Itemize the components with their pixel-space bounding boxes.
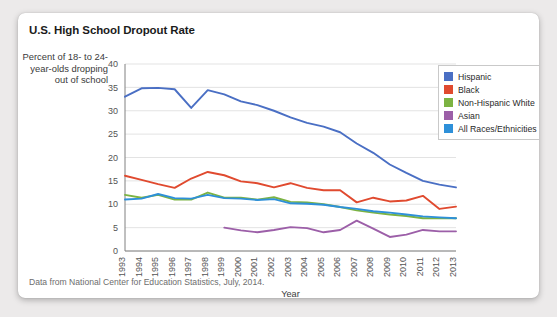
series-line: [125, 194, 456, 218]
legend-item[interactable]: Asian: [444, 109, 537, 122]
x-tick-label: 2003: [283, 257, 293, 277]
series-lines: [125, 88, 456, 237]
series-line: [125, 88, 456, 188]
x-tick-label: 1999: [216, 257, 226, 277]
x-tick-label: 2008: [365, 257, 375, 277]
x-tick-label: 2013: [448, 257, 458, 277]
x-tick-label: 1996: [167, 257, 177, 277]
y-tick-label: 10: [108, 199, 118, 209]
legend-item-label: Asian: [458, 111, 480, 121]
y-tick-label: 30: [108, 106, 118, 116]
legend-item[interactable]: All Races/Ethnicities: [444, 122, 537, 135]
y-tick-label: 15: [108, 176, 118, 186]
grid-lines: [125, 64, 456, 251]
legend-swatch-icon: [444, 72, 453, 81]
x-tick-label: 2009: [382, 257, 392, 277]
x-axis-title: Year: [281, 289, 300, 298]
legend-swatch-icon: [444, 124, 453, 133]
chart-card: U.S. High School Dropout Rate Percent of…: [18, 13, 539, 298]
x-tick-label: 1994: [134, 257, 144, 277]
x-tick-labels: 1993199419951996199719981999200020012002…: [117, 257, 458, 277]
x-tick-label: 1997: [183, 257, 193, 277]
legend-item[interactable]: Hispanic: [444, 70, 537, 83]
chart-legend: HispanicBlackNon-Hispanic WhiteAsianAll …: [438, 65, 539, 140]
x-tick-label: 2005: [316, 257, 326, 277]
x-tick-label: 2011: [415, 257, 425, 276]
legend-swatch-icon: [444, 98, 453, 107]
legend-swatch-icon: [444, 111, 453, 120]
legend-item-label: Hispanic: [458, 72, 491, 82]
x-tick-label: 2002: [266, 257, 276, 277]
y-tick-label: 25: [108, 129, 118, 139]
source-note: Data from National Center for Education …: [29, 277, 264, 287]
line-chart-plot: 0510152025303540 19931994199519961997199…: [18, 13, 539, 298]
y-tick-label: 35: [108, 83, 118, 93]
y-tick-label: 5: [113, 223, 118, 233]
x-tick-label: 2006: [332, 257, 342, 277]
y-tick-labels: 0510152025303540: [108, 59, 118, 256]
x-tick-label: 2007: [349, 257, 359, 277]
x-tick-label: 2004: [299, 257, 309, 277]
legend-item-label: Non-Hispanic White: [458, 98, 535, 108]
x-tick-label: 1993: [117, 257, 127, 277]
y-tick-label: 20: [108, 153, 118, 163]
x-tick-label: 2001: [249, 257, 259, 277]
y-tick-label: 40: [108, 59, 118, 69]
legend-item[interactable]: Non-Hispanic White: [444, 96, 537, 109]
x-axis-label: Year: [281, 289, 300, 298]
x-tick-label: 2000: [233, 257, 243, 277]
legend-swatch-icon: [444, 85, 453, 94]
y-tick-label: 0: [113, 246, 118, 256]
series-line: [224, 221, 456, 237]
legend-item[interactable]: Black: [444, 83, 537, 96]
x-tick-label: 2012: [431, 257, 441, 277]
x-tick-label: 1998: [200, 257, 210, 277]
legend-item-label: Black: [458, 85, 479, 95]
legend-item-label: All Races/Ethnicities: [458, 124, 537, 134]
x-tick-label: 2010: [398, 257, 408, 277]
x-tick-label: 1995: [150, 257, 160, 277]
